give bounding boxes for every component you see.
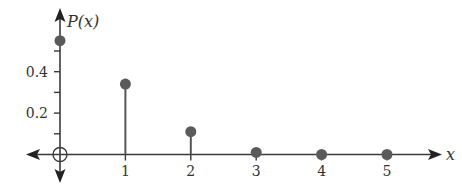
data-point bbox=[382, 149, 393, 160]
probability-distribution-chart: x P(x) 0.20.4 12345 bbox=[0, 0, 462, 191]
data-point bbox=[316, 149, 327, 160]
y-axis-label: P(x) bbox=[66, 12, 99, 31]
x-tick-label: 1 bbox=[121, 163, 130, 179]
x-ticks: 12345 bbox=[121, 155, 392, 179]
y-tick-label: 0.4 bbox=[26, 64, 48, 80]
y-ticks: 0.20.4 bbox=[26, 51, 60, 134]
x-tick-label: 2 bbox=[186, 163, 195, 179]
data-point bbox=[120, 79, 131, 155]
data-point bbox=[251, 147, 262, 158]
point-marker bbox=[55, 35, 66, 46]
point-marker bbox=[120, 79, 131, 90]
x-tick-label: 3 bbox=[252, 163, 261, 179]
x-tick-label: 5 bbox=[383, 163, 392, 179]
data-points bbox=[55, 35, 393, 160]
data-point bbox=[185, 126, 196, 154]
y-tick-label: 0.2 bbox=[26, 105, 48, 121]
point-marker bbox=[382, 149, 393, 160]
x-axis-label: x bbox=[446, 145, 455, 164]
y-axis: P(x) bbox=[55, 8, 100, 183]
point-marker bbox=[185, 126, 196, 137]
data-point bbox=[55, 35, 66, 46]
x-tick-label: 4 bbox=[317, 163, 326, 179]
point-marker bbox=[251, 147, 262, 158]
point-marker bbox=[316, 149, 327, 160]
